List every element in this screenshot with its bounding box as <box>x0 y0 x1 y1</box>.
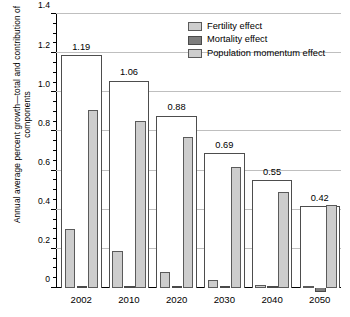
bar-fert <box>160 272 171 288</box>
y-tick-major <box>51 52 56 53</box>
y-tick-minor <box>53 277 56 278</box>
y-tick-major <box>51 13 56 14</box>
legend-item[interactable]: Population momentum effect <box>188 47 325 60</box>
y-tick-minor <box>53 228 56 229</box>
total-value-label: 0.88 <box>168 103 186 112</box>
legend-swatch-icon <box>188 36 202 45</box>
x-tick-label: 2020 <box>166 295 187 305</box>
legend: Fertility effectMortality effectPopulati… <box>188 20 325 60</box>
y-tick-major <box>51 91 56 92</box>
bar-mom <box>278 192 289 288</box>
total-value-label: 1.06 <box>120 68 138 77</box>
bar-fert <box>65 229 76 288</box>
total-value-label: 1.19 <box>72 43 90 52</box>
y-tick-label: 1.2 <box>38 41 50 50</box>
bar-mort <box>220 286 231 288</box>
y-tick-minor <box>53 72 56 73</box>
y-tick-major <box>51 248 56 249</box>
bar-mort <box>172 286 183 288</box>
y-tick-minor <box>53 82 56 83</box>
y-tick-major <box>51 209 56 210</box>
y-tick-minor <box>53 121 56 122</box>
legend-label: Fertility effect <box>207 22 262 31</box>
y-tick-minor <box>53 33 56 34</box>
y-tick-minor <box>53 238 56 239</box>
y-tick-minor <box>53 150 56 151</box>
bar-mom <box>231 167 242 288</box>
y-tick-major <box>51 170 56 171</box>
y-tick-minor <box>53 101 56 102</box>
y-tick-minor <box>53 179 56 180</box>
y-tick-label: 0.8 <box>38 119 50 128</box>
bar-mom <box>88 110 99 288</box>
legend-swatch-icon <box>188 22 202 31</box>
y-tick-minor <box>53 189 56 190</box>
y-tick-minor <box>53 199 56 200</box>
y-tick-label: 1.4 <box>38 1 50 10</box>
bar-mort <box>267 286 278 288</box>
total-value-label: 0.55 <box>263 168 281 177</box>
legend-item[interactable]: Fertility effect <box>188 20 325 33</box>
x-tick-label: 2050 <box>309 295 330 305</box>
y-axis-title: Annual average percent growth—total and … <box>12 0 33 234</box>
bar-mort <box>124 286 135 288</box>
y-tick-minor <box>53 42 56 43</box>
y-tick-minor <box>53 160 56 161</box>
y-tick-label: 0.4 <box>38 197 50 206</box>
y-tick-label: 0 <box>45 275 50 284</box>
bar-fert <box>255 285 266 288</box>
bar-fert <box>303 286 314 288</box>
total-value-label: 0.42 <box>311 194 329 203</box>
legend-item[interactable]: Mortality effect <box>188 33 325 46</box>
y-tick-major <box>51 287 56 288</box>
y-tick-minor <box>53 111 56 112</box>
y-tick-label: 1.0 <box>38 80 50 89</box>
chart-container: Annual average percent growth—total and … <box>0 0 350 317</box>
y-tick-label: 0.6 <box>38 158 50 167</box>
legend-swatch-icon <box>188 49 202 58</box>
x-tick-label: 2010 <box>118 295 139 305</box>
y-tick-minor <box>53 140 56 141</box>
total-value-label: 0.69 <box>215 141 233 150</box>
x-tick-label: 2040 <box>261 295 282 305</box>
bar-mort <box>315 288 326 292</box>
bar-mom <box>135 121 146 288</box>
y-tick-minor <box>53 267 56 268</box>
y-tick-minor <box>53 62 56 63</box>
y-tick-minor <box>53 23 56 24</box>
legend-label: Population momentum effect <box>207 49 325 58</box>
y-tick-minor <box>53 258 56 259</box>
legend-label: Mortality effect <box>207 35 267 44</box>
bar-fert <box>208 280 219 288</box>
y-tick-minor <box>53 219 56 220</box>
x-tick-label: 2030 <box>214 295 235 305</box>
bar-fert <box>112 251 123 288</box>
bar-mom <box>183 137 194 288</box>
bar-mort <box>77 286 88 288</box>
y-tick-major <box>51 130 56 131</box>
bar-group: 1.192002 <box>61 14 102 288</box>
y-tick-label: 0.2 <box>38 236 50 245</box>
bar-mom <box>326 205 337 288</box>
x-tick-label: 2002 <box>71 295 92 305</box>
bar-group: 1.062010 <box>109 14 150 288</box>
